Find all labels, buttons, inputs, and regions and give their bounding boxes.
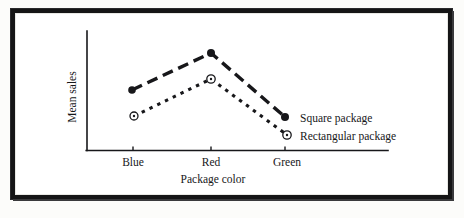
data-point-square-green xyxy=(281,113,289,121)
data-point-square-red xyxy=(207,49,215,57)
series-rectangular-package xyxy=(130,75,291,139)
data-point-rect-blue xyxy=(130,112,138,120)
legend-label-rectangular-package: Rectangular package xyxy=(300,130,396,143)
legend-label-square-package: Square package xyxy=(300,112,372,125)
data-point-square-blue xyxy=(128,86,136,94)
data-point-rect-red xyxy=(207,75,215,83)
series-square-package-line xyxy=(132,53,285,117)
interaction-plot: Mean sales Blue Red Green Package color … xyxy=(0,0,464,218)
data-point-rect-green xyxy=(283,131,291,139)
series-rectangular-package-line xyxy=(134,79,287,135)
series-square-package xyxy=(128,49,289,121)
y-axis-title: Mean sales xyxy=(66,71,78,123)
x-axis-title: Package color xyxy=(181,173,246,186)
x-tick-label-green: Green xyxy=(273,156,301,168)
figure-page: Mean sales Blue Red Green Package color … xyxy=(0,0,464,218)
x-tick-label-blue: Blue xyxy=(122,156,144,168)
x-tick-label-red: Red xyxy=(202,156,221,168)
